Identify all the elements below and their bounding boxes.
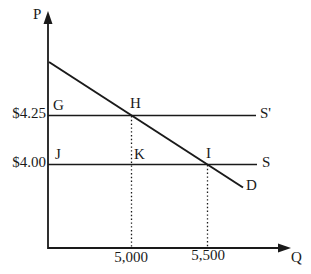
quantity-tick-5500: 5,500 xyxy=(184,248,232,263)
point-label-h: H xyxy=(130,96,141,111)
point-label-i: I xyxy=(206,146,211,161)
price-tick-425: $4.25 xyxy=(8,106,46,121)
curve-label-s: S xyxy=(262,155,270,170)
price-axis-arrowhead-icon xyxy=(44,11,53,24)
axes-lines xyxy=(48,22,280,248)
quantity-tick-5000: 5,000 xyxy=(107,250,155,265)
quantity-axis-arrowhead-icon xyxy=(278,244,291,253)
quantity-axis-label: Q xyxy=(291,250,302,265)
demand-curve xyxy=(49,62,243,188)
curve-label-d: D xyxy=(246,178,257,193)
diagram-canvas xyxy=(0,0,311,274)
point-label-g: G xyxy=(53,98,64,113)
curve-label-s-prime: S' xyxy=(260,106,271,121)
point-label-k: K xyxy=(134,147,145,162)
price-axis-label: P xyxy=(33,7,41,22)
point-label-j: J xyxy=(55,147,61,162)
price-tick-400: $4.00 xyxy=(8,155,46,170)
supply-demand-diagram: P Q $4.25 $4.00 5,000 5,500 G H J K I S'… xyxy=(0,0,311,274)
